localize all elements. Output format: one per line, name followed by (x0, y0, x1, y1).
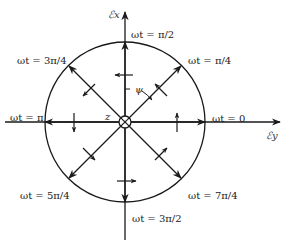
vector-7pi-4 (129, 126, 181, 178)
z-into-page-icon (119, 116, 131, 128)
phase-label-pi-2: ωt = π/2 (131, 29, 174, 40)
polarization-diagram: ℰx ℰy z ψ ωt = 0 ωt = π/4 ωt = π/2 ωt = … (0, 0, 287, 243)
phase-label-3pi-2: ωt = 3π/2 (132, 213, 182, 224)
phase-label-3pi-4: ωt = 3π/4 (17, 55, 67, 66)
vector-3pi-4 (69, 66, 121, 118)
phase-label-5pi-4: ωt = 5π/4 (20, 190, 70, 201)
psi-arc-arrow (142, 91, 152, 100)
vector-5pi-4 (69, 126, 121, 178)
phase-label-pi: ωt = π (10, 112, 44, 123)
z-label: z (104, 111, 111, 122)
ex-axis-label: ℰx (108, 9, 120, 20)
phase-label-7pi-4: ωt = 7π/4 (188, 190, 238, 201)
psi-label: ψ (135, 84, 143, 95)
phase-label-pi-4: ωt = π/4 (188, 55, 231, 66)
ey-axis-label: ℰy (266, 130, 278, 141)
phase-label-0: ωt = 0 (212, 113, 245, 124)
